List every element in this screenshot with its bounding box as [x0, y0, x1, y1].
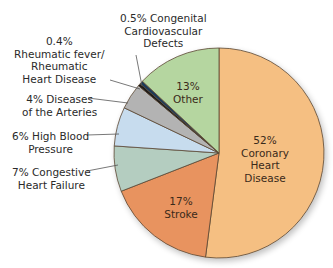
slice-label-other: 13% Other — [173, 80, 203, 105]
label-text: Pressure — [12, 143, 89, 156]
label-text: 0.5% Congenital — [120, 12, 207, 25]
label-chf: 7% Congestive Heart Failure — [12, 166, 91, 191]
label-text: of the Arteries — [22, 106, 97, 119]
label-rheumatic: 0.4% Rheumatic fever/ Rheumatic Heart Di… — [14, 35, 105, 85]
label-text: 4% Diseases — [22, 93, 97, 106]
label-hbp: 6% High Blood Pressure — [12, 130, 89, 155]
label-text: 17% — [164, 195, 197, 208]
label-text: Defects — [120, 37, 207, 50]
label-text: 13% — [173, 80, 203, 93]
label-text: Rheumatic fever/ — [14, 48, 105, 61]
label-text: Stroke — [164, 208, 197, 221]
label-text: Coronary — [241, 147, 289, 160]
label-text: Rheumatic — [14, 60, 105, 73]
leader-hbp — [87, 134, 119, 135]
label-arteries: 4% Diseases of the Arteries — [22, 93, 97, 118]
slice-label-coronary: 52% Coronary Heart Disease — [241, 134, 289, 184]
label-text: Cardiovascular — [120, 25, 207, 38]
label-text: Other — [173, 93, 203, 106]
leader-congenital — [136, 55, 142, 86]
pie-slices — [114, 48, 324, 258]
label-text: 6% High Blood — [12, 130, 89, 143]
label-text: 0.4% — [14, 35, 105, 48]
label-text: Disease — [241, 172, 289, 185]
label-congenital: 0.5% Congenital Cardiovascular Defects — [120, 12, 207, 50]
leader-chf — [87, 165, 118, 171]
label-text: 7% Congestive — [12, 166, 91, 179]
leader-rheumatic — [110, 80, 140, 89]
label-text: Heart Failure — [12, 179, 91, 192]
label-text: Heart — [241, 159, 289, 172]
label-text: 52% — [241, 134, 289, 147]
label-text: Heart Disease — [14, 73, 105, 86]
slice-label-stroke: 17% Stroke — [164, 195, 197, 220]
